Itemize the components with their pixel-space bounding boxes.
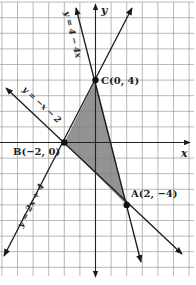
point-b: [61, 139, 67, 145]
x-axis-label: x: [180, 147, 188, 160]
line-label-y-equals-2x-plus-4: y = 2x + 4: [14, 182, 45, 230]
line-label-y-equals-neg-x-minus-2: y = −x − 2: [20, 83, 64, 125]
point-b-label: B(−2, 0): [13, 146, 60, 158]
coordinate-graph: y x C(0, 4) B(−2, 0) A(2, −4) y = 4 − 4x…: [0, 0, 196, 285]
point-a: [124, 202, 130, 208]
point-a-label: A(2, −4): [130, 188, 177, 200]
line-label-y-equals-4-minus-4x: y = 4 − 4x: [62, 9, 84, 60]
point-c: [92, 77, 98, 83]
y-axis-label: y: [100, 4, 109, 17]
point-c-label: C(0, 4): [101, 75, 139, 87]
